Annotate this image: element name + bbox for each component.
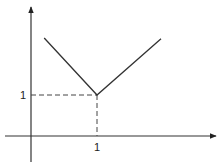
chart: 11 [0, 0, 221, 168]
y-tick-label: 1 [20, 89, 26, 101]
series-line [44, 38, 161, 95]
x-tick-label: 1 [94, 141, 100, 153]
